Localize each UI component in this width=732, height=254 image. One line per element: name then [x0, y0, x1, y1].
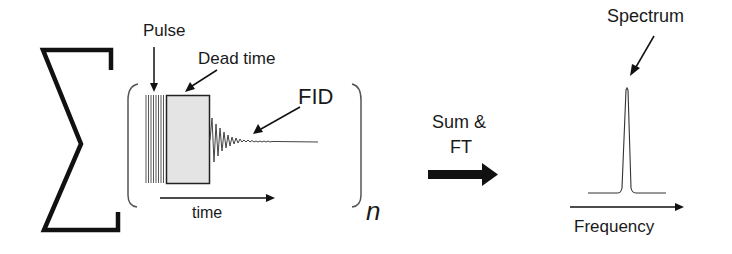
frequency-arrow-icon [675, 203, 684, 211]
summation-icon [44, 50, 112, 71]
summation-icon [43, 50, 118, 230]
pulse-arrow-icon [150, 83, 158, 92]
sum-ft-label-line2: FT [450, 137, 472, 158]
dead-time-box [167, 96, 210, 184]
sum-ft-arrow-icon [482, 163, 498, 186]
pulse-label: Pulse [143, 21, 186, 41]
pulse-lines [146, 95, 164, 183]
frequency-label: Frequency [574, 217, 654, 237]
dead-time-label: Dead time [198, 49, 275, 69]
left-bracket [128, 84, 138, 207]
spectrum-label: Spectrum [607, 6, 684, 27]
spectrum-peak [588, 88, 666, 193]
n-subscript: n [366, 196, 380, 227]
fid-label: FID [298, 84, 333, 110]
spectrum-arrow-icon [630, 64, 640, 76]
time-arrow-icon [266, 194, 275, 202]
sum-ft-label-line1: Sum & [432, 112, 486, 133]
right-bracket [352, 84, 361, 207]
time-label: time [192, 204, 222, 222]
fid-waveform [210, 118, 318, 162]
dead-time-arrow-icon [185, 82, 195, 92]
